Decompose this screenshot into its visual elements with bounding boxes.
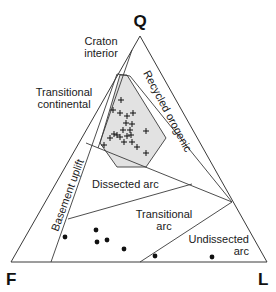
vertex-label-q: Q: [133, 12, 146, 31]
field-label-undissected-arc-2: arc: [234, 245, 250, 257]
field-label-transitional-arc-1: Transitional: [136, 208, 192, 220]
field-label-basement-uplift: Basement uplift: [49, 157, 86, 232]
field-label-transitional-arc-2: arc: [156, 220, 172, 232]
vertex-label-f: F: [6, 270, 16, 289]
dot-marker: [95, 240, 100, 245]
dot-marker: [105, 238, 110, 243]
dot-marker: [210, 255, 215, 260]
field-label-craton-interior-2: interior: [84, 47, 118, 59]
field-label-transitional-continental-1: Transitional: [36, 86, 92, 98]
dot-marker: [153, 254, 158, 259]
qfl-ternary-diagram: Q F L Craton interior Transitional conti…: [0, 0, 276, 292]
dot-marker: [122, 247, 127, 252]
field-label-undissected-arc-1: Undissected: [188, 233, 249, 245]
field-label-dissected-arc: Dissected arc: [92, 178, 159, 190]
dot-marker: [63, 235, 68, 240]
vertex-label-l: L: [258, 270, 268, 289]
field-label-craton-interior-1: Craton: [84, 35, 117, 47]
dot-marker: [94, 228, 99, 233]
field-label-transitional-continental-2: continental: [37, 98, 90, 110]
